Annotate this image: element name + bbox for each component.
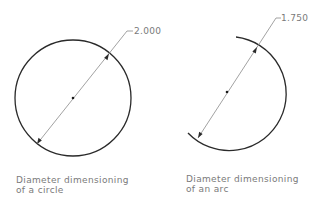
arc-center-mark [226, 91, 229, 94]
arc-dimension-value: 1.750 [281, 13, 308, 23]
arc-caption-line1: Diameter dimensioning [186, 174, 299, 184]
arc-outline [188, 37, 286, 151]
arc-caption-line2: of an arc [186, 184, 299, 194]
arc-diameter-line [198, 18, 276, 138]
circle-figure [15, 31, 133, 156]
arc-figure [188, 18, 286, 151]
arc-caption: Diameter dimensioning of an arc [186, 174, 299, 194]
circle-caption-line2: of a circle [16, 185, 129, 195]
circle-caption-line1: Diameter dimensioning [16, 175, 129, 185]
circle-center-mark [72, 97, 75, 100]
circle-caption: Diameter dimensioning of a circle [16, 175, 129, 195]
circle-diameter-line [37, 31, 127, 144]
circle-dimension-value: 2.000 [134, 26, 161, 36]
